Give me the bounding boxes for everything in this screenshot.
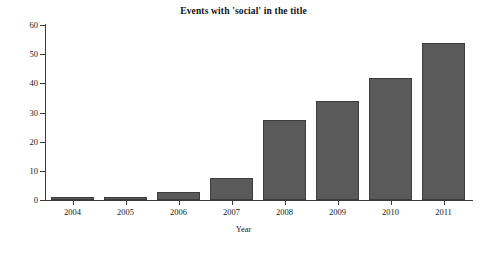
- x-axis-tick: [73, 200, 74, 205]
- bar-2008: [263, 120, 305, 200]
- y-axis-tick-label: 50: [4, 49, 38, 59]
- y-axis-tick: [40, 113, 45, 114]
- x-axis-tick: [285, 200, 286, 205]
- y-axis-tick-label: 60: [4, 20, 38, 30]
- bar-2009: [316, 101, 358, 200]
- y-axis-tick: [40, 200, 45, 201]
- y-axis-tick: [40, 171, 45, 172]
- bar-chart-figure: Events with 'social' in the title Events…: [0, 0, 487, 257]
- x-axis-tick: [338, 200, 339, 205]
- x-axis-tick-label-2005: 2005: [117, 207, 134, 217]
- x-axis-line: [45, 200, 473, 201]
- x-axis-tick-label-2007: 2007: [223, 207, 240, 217]
- x-axis-tick: [232, 200, 233, 205]
- y-axis-tick: [40, 83, 45, 84]
- x-axis-tick-label-2011: 2011: [435, 207, 452, 217]
- x-axis-tick-label-2006: 2006: [170, 207, 187, 217]
- y-axis-tick-label: 20: [4, 137, 38, 147]
- x-axis-tick-label-2008: 2008: [276, 207, 293, 217]
- y-axis-tick: [40, 25, 45, 26]
- bar-2011: [422, 43, 464, 200]
- y-axis-tick-label: 10: [4, 166, 38, 176]
- y-axis-tick-label: 40: [4, 78, 38, 88]
- bar-2007: [210, 178, 252, 200]
- bar-2006: [157, 192, 199, 200]
- y-axis-tick: [40, 142, 45, 143]
- chart-title: Events with 'social' in the title: [0, 6, 487, 16]
- y-axis-tick-labels: 0102030405060: [0, 0, 38, 257]
- x-axis-tick: [444, 200, 445, 205]
- y-axis-tick: [40, 54, 45, 55]
- x-axis-title: Year: [0, 224, 487, 234]
- plot-area: [46, 25, 470, 200]
- x-axis-tick-label-2009: 2009: [329, 207, 346, 217]
- y-axis-tick-label: 30: [4, 108, 38, 118]
- bar-2010: [369, 78, 411, 200]
- y-axis-tick-label: 0: [4, 195, 38, 205]
- x-axis-tick: [179, 200, 180, 205]
- x-axis-tick: [126, 200, 127, 205]
- x-axis-tick: [391, 200, 392, 205]
- x-axis-tick-label-2010: 2010: [382, 207, 399, 217]
- x-axis-tick-label-2004: 2004: [64, 207, 81, 217]
